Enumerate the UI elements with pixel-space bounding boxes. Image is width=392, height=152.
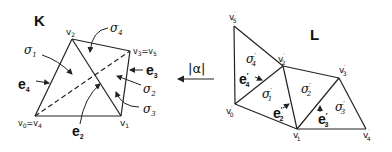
edge-e2-prime-arrow: [283, 104, 289, 108]
map-label: |α|: [188, 61, 205, 76]
vertex-v2: v2: [66, 27, 75, 38]
sigma-3-prime-label: σ′3: [335, 100, 346, 116]
edge-e4-label: e4: [18, 76, 30, 93]
edge-e4-arrow: [36, 81, 49, 83]
vertex-v1-prime: v′1: [293, 128, 301, 142]
edge-e3-label: e3: [146, 62, 158, 79]
complex-k-edges: [35, 39, 130, 116]
edge-e2-label: e2: [72, 123, 84, 140]
vertex-v5-prime: v′5: [229, 10, 237, 24]
complex-k-title: K: [34, 12, 45, 29]
sigma-4-prime-label: σ′4: [246, 52, 256, 68]
edge-e4-prime-label: e′4: [239, 71, 249, 88]
simplicial-map-diagram: K v2 v3=v5 v0=v4 v1 σ1 σ4 σ2 σ3 e4 e3 e2: [0, 0, 392, 152]
vertex-v2-prime: v′2: [278, 52, 286, 66]
sigma-3-label: σ3: [143, 102, 156, 118]
complex-l: L v′5 v′2 v′3 v′0 v′1 v′4 σ′4 σ′1 σ′2 σ′…: [226, 10, 371, 142]
vertex-v0-v4: v0=v4: [18, 119, 42, 129]
complex-l-edges: [234, 26, 366, 129]
vertex-v4-prime: v′4: [363, 128, 371, 142]
edge-e2-arrow: [80, 84, 100, 124]
sigma-2-arrow: [117, 76, 141, 85]
edge-e3-prime-label: e′3: [318, 111, 328, 128]
sigma-4-label: σ4: [110, 21, 123, 37]
diagram-svg: K v2 v3=v5 v0=v4 v1 σ1 σ4 σ2 σ3 e4 e3 e2: [0, 0, 392, 152]
map-alpha: |α|: [178, 61, 214, 79]
sigma-2-label: σ2: [143, 82, 156, 98]
vertex-v1: v1: [120, 118, 129, 129]
sigma-4-arrow: [90, 28, 108, 52]
sigma-1-label: σ1: [24, 43, 37, 59]
vertex-v0-prime: v′0: [226, 104, 234, 118]
edge-e2-prime-label: e′2: [273, 105, 283, 122]
edge-e4-prime-arrow: [255, 77, 262, 80]
vertex-v3-prime: v′3: [339, 63, 347, 77]
sigma-2-prime-label: σ′2: [301, 82, 312, 98]
sigma-1-prime-label: σ′1: [262, 87, 272, 103]
complex-l-title: L: [310, 26, 319, 43]
vertex-v3-v5: v3=v5: [133, 47, 157, 57]
complex-k: K v2 v3=v5 v0=v4 v1 σ1 σ4 σ2 σ3 e4 e3 e2: [18, 12, 158, 140]
sigma-3-arrow: [116, 92, 139, 107]
